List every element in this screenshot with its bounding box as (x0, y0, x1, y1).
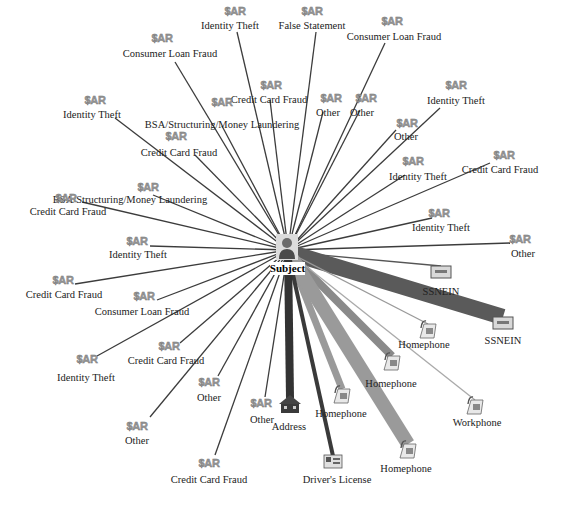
sar-category-label: Identity Theft (427, 95, 485, 106)
sar-badge-icon: $AR (126, 420, 147, 432)
sar-category-label: Other (350, 107, 374, 118)
entity-node[interactable]: Homephone (398, 321, 450, 350)
sar-badge-icon: $AR (126, 235, 147, 247)
sar-badge-icon: $AR (509, 233, 530, 245)
sar-category-label: False Statement (279, 20, 346, 31)
sar-node[interactable]: $ARConsumer Loan Fraud (347, 15, 442, 42)
entity-node[interactable]: SSNEIN (423, 266, 460, 297)
sar-badge-icon: $AR (320, 92, 341, 104)
sar-badge-icon: $AR (52, 274, 73, 286)
sar-link (288, 112, 323, 250)
entity-label: Homephone (380, 463, 432, 474)
sar-badge-icon: $AR (198, 457, 219, 469)
sar-badge-icon: $AR (76, 353, 97, 365)
sar-category-label: Other (125, 435, 149, 446)
sar-link (195, 155, 288, 250)
entity-node[interactable]: Driver's License (303, 455, 372, 485)
subject-label: Subject (270, 262, 306, 274)
sar-badge-icon: $AR (381, 15, 402, 27)
sar-category-label: Consumer Loan Fraud (123, 48, 218, 59)
entity-label: SSNEIN (485, 335, 522, 346)
sar-node[interactable]: $ARIdentity Theft (109, 235, 167, 260)
sar-link (288, 32, 316, 250)
sar-badge-icon: $AR (55, 192, 76, 204)
sar-link (288, 110, 360, 250)
entity-label: Workphone (453, 417, 502, 428)
sar-link (150, 246, 288, 250)
sar-badge-icon: $AR (445, 79, 466, 91)
entity-label: SSNEIN (423, 286, 460, 297)
entity-node[interactable]: Homephone (365, 353, 417, 389)
sar-category-label: Consumer Loan Fraud (347, 31, 442, 42)
sar-category-label: Credit Card Fraud (26, 289, 103, 300)
sar-link (288, 218, 432, 250)
id-card-icon (431, 266, 451, 278)
sar-node[interactable]: $ARConsumer Loan Fraud (123, 32, 218, 59)
sar-badge-icon: $AR (428, 207, 449, 219)
entity-node[interactable]: Homephone (380, 441, 432, 474)
sar-badge-icon: $AR (402, 155, 423, 167)
sar-badge-icon: $AR (198, 376, 219, 388)
sar-badge-icon: $AR (165, 130, 186, 142)
entity-label: Homephone (315, 408, 367, 419)
sar-badge-icon: $AR (151, 32, 172, 44)
sar-category-label: Identity Theft (412, 222, 470, 233)
house-icon (279, 395, 301, 413)
sar-badge-icon: $AR (211, 96, 232, 108)
sar-badge-icon: $AR (158, 340, 179, 352)
sar-node[interactable]: $ARCredit Card Fraud (128, 340, 205, 366)
entity-label: Driver's License (303, 474, 372, 485)
sar-link (157, 250, 288, 300)
sar-category-label: Other (316, 107, 340, 118)
sar-category-label: Credit Card Fraud (141, 147, 218, 158)
sar-node[interactable]: $ARConsumer Loan Fraud (95, 290, 190, 317)
sar-category-label: Other (250, 414, 274, 425)
sar-node[interactable]: $ARCredit Card Fraud (231, 79, 308, 105)
sar-node[interactable]: $AROther (125, 420, 149, 446)
sar-badge-icon: $AR (301, 5, 322, 17)
entity-node[interactable]: Workphone (453, 397, 502, 428)
sar-badge-icon: $AR (224, 5, 245, 17)
sar-category-label: Other (394, 131, 418, 142)
sar-category-label: Credit Card Fraud (30, 206, 107, 217)
sar-badge-icon: $AR (137, 181, 158, 193)
sar-badge-icon: $AR (396, 117, 417, 129)
sar-node[interactable]: $ARIdentity Theft (427, 79, 485, 106)
sar-badge-icon: $AR (84, 94, 105, 106)
id-card-icon (493, 317, 513, 329)
link-analysis-graph: $ARIdentity Theft$ARFalse Statement$ARCo… (0, 0, 563, 507)
sar-category-label: Credit Card Fraud (462, 164, 539, 175)
sar-node[interactable]: $ARCredit Card Fraud (141, 130, 218, 158)
sar-node[interactable]: $AROther (197, 376, 221, 403)
sar-node[interactable]: $ARCredit Card Fraud (462, 149, 539, 175)
sar-category-label: Consumer Loan Fraud (95, 306, 190, 317)
sar-link (222, 126, 288, 250)
sar-node[interactable]: $AROther (250, 397, 274, 425)
sar-link (288, 130, 396, 250)
sar-category-label: Identity Theft (57, 372, 115, 383)
sar-badge-icon: $AR (355, 92, 376, 104)
sar-node[interactable]: $AROther (509, 233, 535, 259)
sar-category-label: Identity Theft (109, 249, 167, 260)
sar-node[interactable]: $AROther (316, 92, 342, 118)
sar-badge-icon: $AR (250, 397, 271, 409)
entity-label: Address (272, 421, 306, 432)
sar-badge-icon: $AR (260, 79, 281, 91)
sar-category-label: Credit Card Fraud (231, 94, 308, 105)
sar-node[interactable]: $AROther (394, 117, 418, 142)
sar-category-label: BSA/Structuring/Money Laundering (145, 119, 300, 130)
sar-link (288, 243, 510, 250)
sar-node[interactable]: $ARIdentity Theft (57, 353, 115, 383)
sar-category-label: Other (197, 392, 221, 403)
sar-node[interactable]: $ARIdentity Theft (389, 155, 447, 182)
sar-badge-icon: $AR (493, 149, 514, 161)
entity-node[interactable]: Address (272, 395, 306, 432)
sar-node[interactable]: $ARIdentity Theft (63, 94, 121, 120)
sar-category-label: Identity Theft (389, 171, 447, 182)
sar-node[interactable]: $ARCredit Card Fraud (171, 457, 248, 485)
sar-node[interactable]: $ARIdentity Theft (201, 5, 259, 31)
sar-node[interactable]: $AROther (350, 92, 377, 118)
sar-category-label: Credit Card Fraud (171, 474, 248, 485)
sar-node[interactable]: $ARFalse Statement (279, 5, 346, 31)
sar-node[interactable]: $ARCredit Card Fraud (26, 274, 103, 300)
